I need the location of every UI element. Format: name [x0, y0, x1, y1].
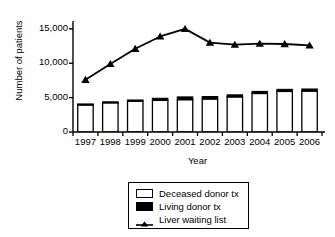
- legend-item-waiting-list: Liver waiting list: [136, 213, 248, 226]
- waiting-list-line: [85, 29, 309, 80]
- bar-living-donor: [227, 95, 242, 97]
- x-axis-title: Year: [73, 155, 322, 166]
- filled-square-icon: [136, 202, 153, 211]
- y-axis-tick-label: 15,000: [22, 23, 68, 33]
- waiting-list-marker: [106, 60, 114, 67]
- legend-label: Living donor tx: [159, 201, 221, 212]
- legend-label: Deceased donor tx: [159, 188, 239, 199]
- x-axis-tick-label: 2006: [290, 136, 330, 147]
- bar-living-donor: [302, 89, 317, 91]
- bar-deceased-donor: [302, 91, 317, 132]
- waiting-list-marker: [181, 25, 189, 32]
- bar-deceased-donor: [227, 97, 242, 132]
- bar-deceased-donor: [202, 99, 217, 132]
- bar-living-donor: [177, 97, 192, 100]
- bar-living-donor: [252, 91, 267, 93]
- y-axis-tick-labels: 05,00010,00015,000: [18, 0, 68, 237]
- bar-living-donor: [103, 102, 118, 103]
- legend-item-living-donor: Living donor tx: [136, 200, 248, 213]
- bar-deceased-donor: [103, 102, 118, 132]
- bar-living-donor: [202, 97, 217, 99]
- open-square-icon: [136, 189, 153, 198]
- plot-area: [73, 22, 322, 132]
- bar-deceased-donor: [177, 100, 192, 132]
- bar-deceased-donor: [277, 91, 292, 132]
- plot-svg: [73, 22, 322, 132]
- line-triangle-svg: [136, 220, 153, 229]
- y-axis-tick-label: 5,000: [22, 92, 68, 102]
- bar-deceased-donor: [128, 101, 143, 132]
- liver-transplant-chart: Number of patients 05,00010,00015,000 19…: [0, 0, 335, 237]
- line-triangle-marker-icon: [136, 215, 153, 224]
- chart-legend: Deceased donor tx Living donor tx Liver …: [128, 182, 249, 229]
- bar-living-donor: [152, 98, 167, 100]
- bar-deceased-donor: [78, 105, 93, 133]
- waiting-list-marker: [131, 45, 139, 52]
- legend-item-deceased-donor: Deceased donor tx: [136, 187, 248, 200]
- bar-living-donor: [128, 100, 143, 101]
- bar-living-donor: [277, 89, 292, 91]
- x-axis-tick-labels: 1997199819992000200120022003200420052006: [73, 136, 325, 150]
- y-axis-tick-label: 0: [22, 126, 68, 136]
- y-axis-tick-label: 10,000: [22, 57, 68, 67]
- bar-deceased-donor: [152, 100, 167, 132]
- legend-label: Liver waiting list: [159, 214, 226, 225]
- bar-deceased-donor: [252, 94, 267, 133]
- bar-living-donor: [78, 104, 93, 105]
